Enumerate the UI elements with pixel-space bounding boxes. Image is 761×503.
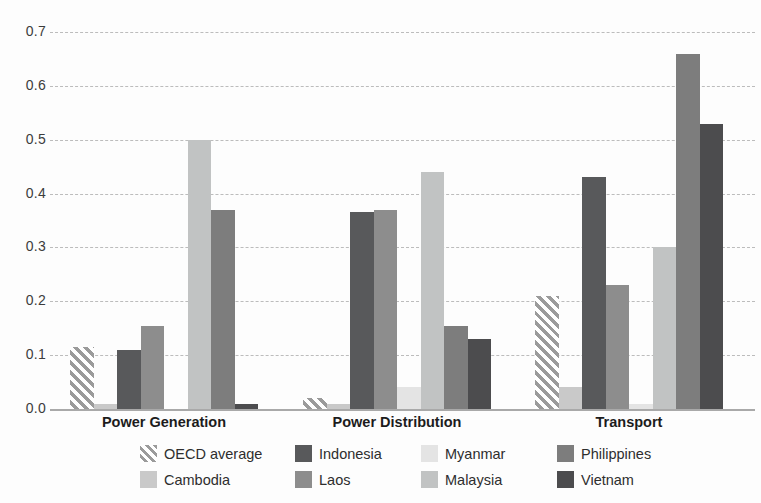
legend-label-laos: Laos [319, 472, 350, 488]
bar-myanmar-power-distribution [397, 387, 421, 409]
y-tick-label-0.0: 0.0 [0, 400, 46, 416]
category-label-transport: Transport [519, 414, 739, 430]
y-tick-label-0.4: 0.4 [0, 185, 46, 201]
legend-item-oecd-average: OECD average [140, 444, 295, 463]
bar-philippines-power-generation [211, 210, 235, 409]
bar-malaysia-power-generation [188, 140, 212, 409]
legend-item-laos: Laos [295, 470, 421, 489]
bar-group-transport [535, 32, 723, 409]
legend-item-philippines: Philippines [557, 444, 651, 463]
legend-swatch-philippines [557, 445, 574, 462]
bar-oecd-average-power-distribution [303, 398, 327, 409]
legend-label-philippines: Philippines [581, 446, 651, 462]
y-tick-label-0.5: 0.5 [0, 131, 46, 147]
bar-philippines-power-distribution [444, 326, 468, 409]
bar-cambodia-transport [559, 387, 583, 409]
legend-item-myanmar: Myanmar [421, 444, 557, 463]
x-axis-baseline [50, 409, 755, 411]
legend-swatch-malaysia [421, 471, 438, 488]
y-tick-label-0.7: 0.7 [0, 23, 46, 39]
bar-vietnam-power-generation [235, 404, 259, 409]
bar-vietnam-power-distribution [468, 339, 492, 409]
plot-area [50, 32, 755, 409]
legend-item-vietnam: Vietnam [557, 470, 651, 489]
bar-indonesia-power-distribution [350, 212, 374, 409]
legend: OECD averageIndonesiaMyanmarPhilippinesC… [140, 444, 651, 489]
bar-cambodia-power-generation [94, 404, 118, 409]
legend-swatch-laos [295, 471, 312, 488]
bar-group-power-distribution [303, 32, 491, 409]
legend-swatch-vietnam [557, 471, 574, 488]
legend-label-oecd-average: OECD average [164, 446, 262, 462]
bar-group-power-generation [70, 32, 258, 409]
bar-chart: 0.00.10.20.30.40.50.60.7 Power Generatio… [0, 0, 761, 503]
bar-oecd-average-power-generation [70, 347, 94, 409]
legend-item-malaysia: Malaysia [421, 470, 557, 489]
category-label-power-generation: Power Generation [54, 414, 274, 430]
bar-laos-power-generation [141, 326, 165, 409]
y-tick-label-0.6: 0.6 [0, 77, 46, 93]
y-tick-label-0.3: 0.3 [0, 238, 46, 254]
legend-label-cambodia: Cambodia [164, 472, 230, 488]
legend-item-indonesia: Indonesia [295, 444, 421, 463]
bar-malaysia-transport [653, 247, 677, 409]
legend-label-vietnam: Vietnam [581, 472, 634, 488]
legend-label-myanmar: Myanmar [445, 446, 505, 462]
bar-indonesia-transport [582, 177, 606, 409]
bar-indonesia-power-generation [117, 350, 141, 409]
bar-oecd-average-transport [535, 296, 559, 409]
legend-swatch-cambodia [140, 471, 157, 488]
y-tick-label-0.1: 0.1 [0, 346, 46, 362]
bar-malaysia-power-distribution [421, 172, 445, 409]
bar-laos-power-distribution [374, 210, 398, 409]
bar-myanmar-transport [629, 404, 653, 409]
bar-philippines-transport [676, 54, 700, 409]
bar-cambodia-power-distribution [327, 404, 351, 409]
bar-vietnam-transport [700, 124, 724, 409]
y-tick-label-0.2: 0.2 [0, 292, 46, 308]
legend-label-malaysia: Malaysia [445, 472, 502, 488]
bar-laos-transport [606, 285, 630, 409]
legend-swatch-indonesia [295, 445, 312, 462]
legend-item-cambodia: Cambodia [140, 470, 295, 489]
legend-swatch-oecd-average [140, 445, 157, 462]
legend-label-indonesia: Indonesia [319, 446, 382, 462]
legend-swatch-myanmar [421, 445, 438, 462]
category-label-power-distribution: Power Distribution [287, 414, 507, 430]
